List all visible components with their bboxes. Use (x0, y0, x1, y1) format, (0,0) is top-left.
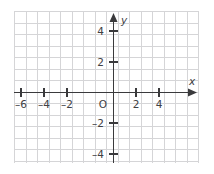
x-tick-label--2: –2 (61, 98, 73, 110)
coordinate-plane-figure: –6 –4 –2 2 4 4 2 –2 –4 O x y (0, 0, 214, 174)
x-tick-label--4: –4 (38, 98, 50, 110)
cartesian-grid-svg: –6 –4 –2 2 4 4 2 –2 –4 O x y (0, 0, 214, 174)
x-tick-label-4: 4 (156, 98, 163, 110)
x-tick-label-2: 2 (133, 98, 140, 110)
x-tick-label--6: –6 (15, 98, 27, 110)
y-tick-label-2: 2 (97, 56, 104, 68)
x-axis-label: x (188, 75, 196, 87)
y-tick-label-4: 4 (97, 25, 104, 37)
y-tick-label--4: –4 (92, 148, 104, 160)
y-axis-label: y (120, 14, 128, 26)
y-tick-label--2: –2 (92, 117, 104, 129)
origin-label: O (99, 98, 107, 110)
